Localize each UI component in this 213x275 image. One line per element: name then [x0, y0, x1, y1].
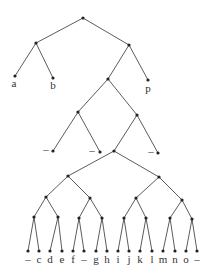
node-label: –	[147, 145, 154, 157]
tree-node	[134, 196, 137, 199]
tree-edge	[102, 218, 107, 251]
tree-edge	[90, 198, 102, 218]
tree-edge	[46, 197, 58, 217]
tree-node	[168, 216, 171, 219]
node-label: e	[60, 253, 65, 265]
tree-node	[112, 149, 115, 152]
tree-edge	[50, 217, 58, 251]
tree-edge	[186, 219, 192, 251]
tree-node	[66, 174, 69, 177]
tree-edge	[34, 197, 46, 217]
tree-node	[127, 43, 130, 46]
tree-edge	[136, 198, 146, 218]
node-label: k	[137, 253, 143, 265]
tree-edge	[28, 217, 34, 251]
tree-node	[157, 175, 160, 178]
tree-node	[34, 41, 37, 44]
tree-edge	[79, 218, 84, 251]
tree-edge	[182, 200, 192, 219]
tree-edge	[124, 198, 136, 218]
tree-node	[98, 150, 101, 153]
node-label: j	[126, 253, 130, 265]
tree-edge	[170, 200, 182, 218]
tree-edge	[34, 217, 39, 251]
tree-edge	[108, 45, 129, 79]
tree-edge	[163, 218, 170, 251]
node-label: c	[37, 253, 42, 265]
tree-node	[100, 216, 103, 219]
tree-node	[76, 110, 79, 113]
node-label: i	[116, 253, 119, 265]
tree-node	[156, 151, 159, 154]
tree-node	[190, 217, 193, 220]
tree-node	[88, 196, 91, 199]
node-label: f	[71, 253, 75, 265]
tree-edge	[68, 176, 90, 198]
tree-node	[180, 198, 183, 201]
tree-node	[81, 16, 84, 19]
node-label: m	[159, 253, 168, 265]
node-label: h	[104, 253, 110, 265]
node-label: a	[12, 77, 17, 89]
tree-edge	[83, 18, 129, 45]
node-label: g	[93, 253, 99, 265]
tree-edge	[46, 176, 68, 197]
node-label: p	[145, 82, 151, 94]
tree-edge	[159, 177, 182, 200]
tree-node	[77, 216, 80, 219]
node-label: –	[88, 144, 95, 156]
tree-edge	[129, 45, 148, 80]
tree-edge	[36, 43, 53, 78]
tree-edge	[140, 218, 146, 251]
node-label: b	[50, 79, 56, 91]
tree-edge	[136, 177, 159, 198]
tree-edge	[15, 43, 36, 76]
node-label: d	[47, 253, 53, 265]
tree-edge	[108, 79, 137, 115]
tree-edge	[96, 218, 102, 251]
tree-edge	[124, 218, 129, 251]
tree-edge	[114, 115, 137, 151]
tree-node	[32, 215, 35, 218]
tree-node	[144, 216, 147, 219]
tree-node	[51, 149, 54, 152]
tree-edge	[36, 18, 83, 43]
tree-edge	[78, 79, 108, 112]
tree-edge	[53, 112, 78, 151]
tree-edge	[58, 217, 62, 251]
tree-edge	[192, 219, 197, 251]
tree-node	[122, 216, 125, 219]
tree-edges	[15, 18, 197, 251]
node-label: –	[193, 253, 200, 265]
tree-nodes	[13, 16, 198, 252]
tree-edge	[118, 218, 124, 251]
node-label: n	[172, 253, 178, 265]
tree-labels: abp––––cdef–ghijklmno–	[12, 77, 201, 265]
node-label: –	[24, 253, 31, 265]
node-label: –	[42, 143, 49, 155]
tree-node	[135, 113, 138, 116]
tree-edge	[146, 218, 152, 251]
tree-edge	[73, 218, 79, 251]
tree-node	[44, 195, 47, 198]
tree-edge	[170, 218, 175, 251]
node-label: l	[150, 253, 153, 265]
tree-edge	[79, 198, 90, 218]
node-label: –	[80, 253, 87, 265]
tree-diagram: abp––––cdef–ghijklmno–	[0, 0, 213, 275]
tree-node	[56, 215, 59, 218]
tree-node	[106, 77, 109, 80]
node-label: o	[183, 253, 189, 265]
